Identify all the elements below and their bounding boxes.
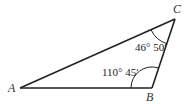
triangle-diagram: A B C 46° 50′ 110° 45′ xyxy=(0,0,187,104)
side-ac xyxy=(20,19,175,88)
angle-label-c: 46° 50′ xyxy=(135,41,167,53)
side-bc xyxy=(152,19,175,88)
angle-label-b: 110° 45′ xyxy=(102,66,139,78)
vertex-label-a: A xyxy=(7,81,16,95)
vertex-label-b: B xyxy=(146,90,154,104)
vertex-label-c: C xyxy=(173,2,182,16)
